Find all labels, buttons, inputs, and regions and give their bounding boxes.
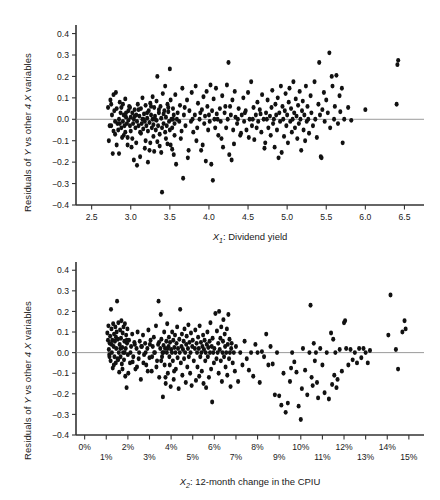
scatter-point	[172, 152, 176, 157]
scatter-point	[250, 123, 254, 128]
scatter-point	[268, 114, 272, 119]
scatter-point	[348, 347, 352, 352]
scatter-point	[141, 333, 145, 338]
scatter-point	[295, 114, 299, 119]
scatter-point	[342, 117, 346, 122]
scatter-point	[311, 383, 315, 388]
x-axis-tick-label: 2.5	[86, 212, 98, 222]
scatter-point	[206, 354, 210, 359]
scatter-point	[266, 98, 270, 103]
scatter-point	[332, 373, 336, 378]
scatter-point	[193, 113, 197, 118]
x-axis-tick-label: 13%	[357, 452, 375, 462]
scatter-point	[243, 110, 247, 115]
scatter-point	[122, 133, 126, 138]
scatter-point	[115, 330, 119, 335]
scatter-point	[216, 341, 220, 346]
scatter-point	[346, 105, 350, 110]
scatter-point	[221, 339, 225, 344]
x-axis-tick-label: 4.0	[203, 212, 215, 222]
scatter-point	[238, 350, 242, 355]
scatter-point	[253, 342, 257, 347]
scatter-point	[244, 128, 248, 133]
x-axis-label-text: : 12-month change in the CPIU	[190, 476, 320, 487]
scatter-point	[136, 102, 140, 107]
scatter-point	[205, 104, 209, 109]
scatter-point	[269, 133, 273, 138]
scatter-plot-bottom: −0.4−0.3−0.2−0.10.00.10.20.30.40%1%2%3%4…	[0, 250, 440, 500]
x-axis-label-bottom: X2: 12-month change in the CPIU	[120, 476, 380, 489]
scatter-point	[138, 154, 142, 159]
scatter-point	[338, 109, 342, 114]
scatter-point	[344, 346, 348, 351]
scatter-point	[123, 350, 127, 355]
x-axis-tick-label: 11%	[314, 452, 331, 462]
scatter-point	[175, 324, 179, 329]
scatter-point	[129, 145, 133, 150]
scatter-point	[167, 335, 171, 340]
scatter-point	[146, 328, 150, 333]
scatter-point	[196, 335, 200, 340]
scatter-point	[144, 123, 148, 128]
scatter-point	[331, 337, 335, 342]
scatter-point	[110, 342, 114, 347]
scatter-point	[148, 140, 152, 145]
scatter-point	[223, 332, 227, 337]
scatter-point	[189, 350, 193, 355]
scatter-point	[145, 116, 149, 121]
scatter-point	[144, 350, 148, 355]
scatter-point	[171, 106, 175, 111]
scatter-point	[173, 333, 177, 338]
scatter-point	[131, 121, 135, 126]
scatter-point	[210, 108, 214, 113]
scatter-point	[336, 377, 340, 382]
x-axis-tick-label: 6.0	[359, 212, 371, 222]
scatter-point	[272, 117, 276, 122]
scatter-point	[158, 132, 162, 137]
x-axis-tick-label: 8%	[251, 442, 264, 452]
scatter-point	[237, 106, 241, 111]
scatter-point	[297, 404, 301, 409]
scatter-point	[224, 365, 228, 370]
scatter-point	[211, 336, 215, 341]
scatter-point	[111, 151, 115, 156]
scatter-point	[126, 371, 130, 376]
scatter-point	[163, 375, 167, 380]
scatter-point	[290, 130, 294, 135]
scatter-point	[149, 104, 153, 109]
scatter-point	[147, 148, 151, 153]
scatter-point	[143, 341, 147, 346]
scatter-point	[204, 159, 208, 164]
scatter-point	[117, 370, 121, 375]
scatter-point	[212, 360, 216, 365]
scatter-point	[154, 365, 158, 370]
scatter-point	[310, 375, 314, 380]
scatter-point	[161, 394, 165, 399]
scatter-point	[134, 346, 138, 351]
scatter-point	[141, 360, 145, 365]
scatter-point	[160, 190, 164, 195]
y-axis-tick-label: 0.0	[57, 114, 69, 124]
scatter-point	[162, 111, 166, 116]
scatter-point	[277, 393, 281, 398]
scatter-point	[231, 360, 235, 365]
scatter-point	[202, 381, 206, 386]
scatter-point	[166, 105, 170, 110]
scatter-point	[117, 117, 121, 122]
scatter-point	[159, 312, 163, 317]
y-axis-tick-label: −0.1	[52, 136, 69, 146]
scatter-point	[191, 338, 195, 343]
scatter-point	[282, 134, 286, 139]
scatter-point	[225, 373, 229, 378]
x-axis-tick-label: 4.5	[242, 212, 254, 222]
scatter-point	[338, 347, 342, 352]
scatter-point	[172, 377, 176, 382]
scatter-point	[341, 140, 345, 145]
scatter-point	[137, 356, 141, 361]
x-axis-tick-label: 0%	[78, 442, 91, 452]
x-axis-tick-label: 5.0	[281, 212, 293, 222]
scatter-point	[289, 106, 293, 111]
scatter-point	[185, 98, 189, 103]
scatter-point	[303, 368, 307, 373]
scatter-point	[163, 130, 167, 135]
